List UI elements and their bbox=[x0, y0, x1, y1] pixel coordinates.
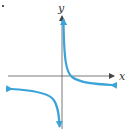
curve-left-branch bbox=[11, 89, 60, 126]
y-axis-label: y bbox=[57, 2, 65, 15]
curve-right-branch bbox=[64, 20, 113, 85]
figure-marker bbox=[2, 5, 4, 7]
function-graph: x y bbox=[0, 0, 130, 129]
x-axis-label: x bbox=[119, 70, 126, 83]
